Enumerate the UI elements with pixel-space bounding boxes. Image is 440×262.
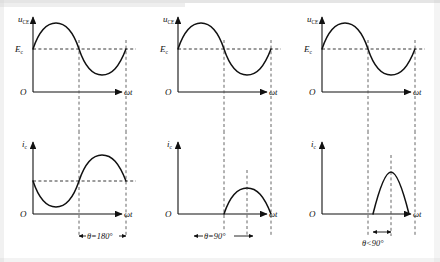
x-axis-label: ωt (269, 87, 278, 97)
uce-waveform (178, 23, 271, 75)
ec-label: Ec (159, 44, 169, 55)
y-axis-label: uCE (307, 14, 319, 25)
plot-bottom-left: ic O ωt θ=180° (20, 131, 136, 242)
x-axis-label: ωt (413, 87, 422, 97)
figure-canvas: uCE Ec O ωt ic O ωt θ=180° (0, 0, 440, 262)
x-axis-label: ωt (413, 209, 422, 219)
ic-waveform (33, 155, 126, 207)
conduction-angle-label: θ=180° (87, 232, 113, 241)
column-3: uCE Ec O ωt ic O ωt θ<90° (303, 14, 425, 248)
origin-label: O (165, 209, 172, 219)
ic-waveform (224, 188, 271, 214)
plot-bottom-middle: ic O ωt θ=90° (165, 131, 278, 242)
conduction-angle-label: θ=90° (204, 232, 226, 241)
plot-top-left: uCE Ec O ωt (14, 14, 136, 131)
y-axis-label: uCE (18, 14, 30, 25)
column-2: uCE Ec O ωt ic O ωt θ=90° (159, 14, 281, 242)
origin-label: O (20, 87, 27, 97)
plot-top-middle: uCE Ec O ωt (159, 14, 281, 131)
x-axis-label: ωt (124, 87, 133, 97)
ec-label: Ec (303, 44, 313, 55)
y-axis-label: ic (167, 139, 173, 150)
origin-label: O (309, 209, 316, 219)
x-axis-label: ωt (124, 209, 133, 219)
x-axis-label: ωt (269, 209, 278, 219)
origin-label: O (20, 209, 27, 219)
column-1: uCE Ec O ωt ic O ωt θ=180° (14, 14, 136, 242)
plot-top-right: uCE Ec O ωt (303, 14, 425, 131)
waveform-figure: uCE Ec O ωt ic O ωt θ=180° (0, 0, 440, 262)
y-axis-label: ic (22, 139, 28, 150)
uce-waveform (322, 23, 415, 75)
uce-waveform (33, 23, 126, 75)
origin-label: O (165, 87, 172, 97)
y-axis-label: uCE (163, 14, 175, 25)
origin-label: O (309, 87, 316, 97)
plot-bottom-right: ic O ωt θ<90° (309, 131, 422, 248)
ec-label: Ec (14, 44, 24, 55)
conduction-angle-label: θ<90° (362, 239, 384, 248)
y-axis-label: ic (311, 139, 317, 150)
